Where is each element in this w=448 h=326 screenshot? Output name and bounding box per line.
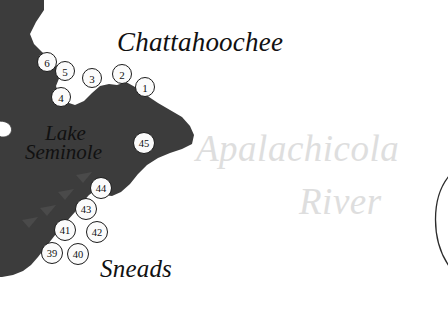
site-marker-label: 42 [92, 227, 103, 238]
site-marker-42[interactable]: 42 [86, 221, 108, 243]
site-marker-label: 1 [142, 82, 148, 93]
site-marker-41[interactable]: 41 [54, 219, 76, 241]
site-marker-label: 5 [62, 66, 68, 77]
site-marker-label: 43 [81, 204, 92, 215]
site-marker-label: 4 [58, 92, 64, 103]
map-geometry-layer [0, 0, 448, 326]
site-marker-label: 2 [119, 69, 125, 80]
site-marker-label: 6 [44, 57, 50, 68]
site-marker-label: 40 [73, 249, 84, 260]
site-marker-44[interactable]: 44 [90, 177, 112, 199]
site-marker-39[interactable]: 39 [41, 242, 63, 264]
map-canvas: Apalachicola River Chattahoochee Sneads … [0, 0, 448, 326]
site-marker-1[interactable]: 1 [135, 77, 155, 97]
site-marker-label: 3 [89, 73, 95, 84]
site-marker-5[interactable]: 5 [55, 61, 75, 81]
site-marker-3[interactable]: 3 [82, 68, 102, 88]
site-marker-6[interactable]: 6 [37, 52, 57, 72]
site-marker-45[interactable]: 45 [133, 132, 155, 154]
site-marker-40[interactable]: 40 [67, 243, 89, 265]
site-marker-43[interactable]: 43 [75, 198, 97, 220]
site-marker-label: 44 [96, 183, 107, 194]
site-marker-label: 45 [139, 138, 150, 149]
site-marker-4[interactable]: 4 [51, 87, 71, 107]
site-marker-label: 41 [60, 225, 71, 236]
site-marker-2[interactable]: 2 [112, 64, 132, 84]
site-marker-label: 39 [47, 248, 58, 259]
